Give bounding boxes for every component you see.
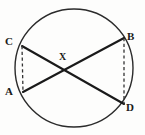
point-label-b: B	[127, 31, 134, 42]
geometry-canvas	[0, 0, 145, 135]
point-label-x: X	[59, 51, 66, 62]
point-label-a: A	[5, 86, 13, 97]
chord-a-b	[23, 38, 124, 92]
circle-outline	[15, 9, 133, 127]
chord-c-d	[22, 46, 124, 104]
point-label-c: C	[5, 36, 13, 47]
point-label-d: D	[126, 102, 134, 113]
dashed-segment-c-a	[22, 46, 23, 92]
geometry-diagram: C B A D X	[0, 0, 145, 135]
